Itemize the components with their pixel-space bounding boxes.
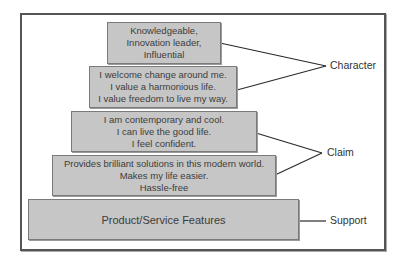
tier-1-line-3: Influential [144,49,185,61]
tier-4-line-1: Provides brilliant solutions in this mod… [64,158,264,170]
tier-1-line-1: Knowledgeable, [130,25,198,37]
tier-2-line-3: I value freedom to live my way. [98,93,228,105]
tier-3-line-2: I can live the good life. [117,126,212,138]
tier-5-line-1: Product/Service Features [101,214,225,226]
tier-3-line-3: I feel confident. [132,138,196,150]
tier-2-line-2: I value a harmonious life. [110,81,216,93]
tier-4-line-2: Makes my life easier. [120,170,209,182]
pyramid-tier-4: Provides brilliant solutions in this mod… [52,155,276,196]
pyramid-tier-3: I am contemporary and cool. I can live t… [71,111,257,152]
pyramid-tier-5: Product/Service Features [28,199,299,240]
tier-4-line-3: Hassle-free [140,182,189,194]
group-label-character: Character [330,59,376,71]
tier-2-line-1: I welcome change around me. [99,69,226,81]
pyramid-tier-2: I welcome change around me. I value a ha… [89,66,237,108]
group-label-claim: Claim [327,146,354,158]
tier-3-line-1: I am contemporary and cool. [104,114,224,126]
tier-1-line-2: Innovation leader, [126,37,201,49]
pyramid-tier-1: Knowledgeable, Innovation leader, Influe… [107,22,221,64]
group-label-support: Support [330,214,367,226]
